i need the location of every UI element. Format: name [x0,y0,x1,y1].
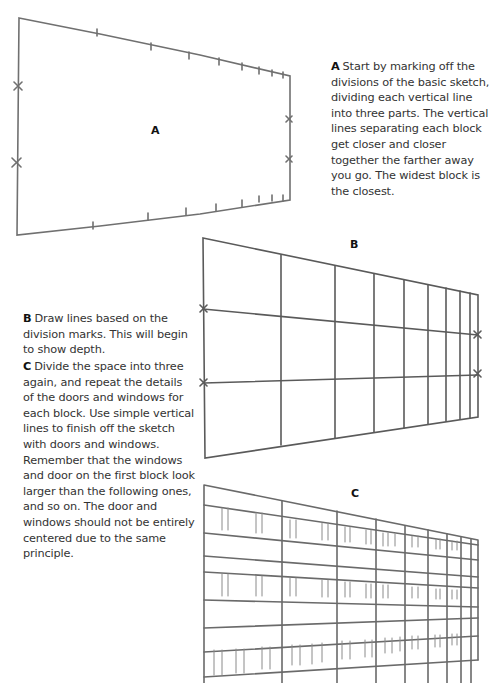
caption-c-text: Divide the space into three again, and r… [23,360,195,560]
sketch-b-grid [200,238,481,458]
caption-b: BDraw lines based on the division marks.… [23,311,193,358]
caption-c-lead: C [23,360,31,373]
caption-a-lead: A [331,60,340,73]
caption-b-text: Draw lines based on the division marks. … [23,312,188,356]
caption-a: AStart by marking off the divisions of t… [331,59,492,199]
caption-b-lead: B [23,312,31,325]
caption-a-text: Start by marking off the divisions of th… [331,60,489,198]
caption-c: CDivide the space into three again, and … [23,359,195,562]
figure-label-a: A [151,124,160,137]
sketch-c-facade [204,485,478,683]
figure-label-c: C [351,487,359,500]
figure-label-b: B [350,238,358,251]
